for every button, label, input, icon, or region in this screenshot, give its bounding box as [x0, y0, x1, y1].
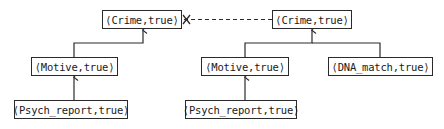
edge-motive-mid-to-crime-right	[245, 30, 312, 57]
node-dna-match: ⟨DNA_match,true⟩	[328, 57, 433, 76]
node-psych-report-mid: ⟨Psych_report,true⟩	[185, 100, 297, 119]
edge-dna-to-crime-right	[312, 43, 380, 57]
node-psych-report-left: ⟨Psych_report,true⟩	[14, 100, 128, 119]
node-crime-right: ⟨Crime,true⟩	[272, 10, 352, 29]
edge-motive-left-to-crime-left	[74, 30, 143, 57]
node-motive-left: ⟨Motive,true⟩	[31, 57, 118, 76]
argument-diagram: ⟨Crime,true⟩ ⟨Crime,true⟩ ⟨Motive,true⟩ …	[0, 0, 444, 129]
node-motive-mid: ⟨Motive,true⟩	[201, 57, 289, 76]
node-crime-left: ⟨Crime,true⟩	[102, 10, 182, 29]
